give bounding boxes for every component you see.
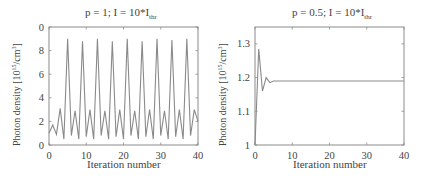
x-tick-label: 0 <box>46 150 51 161</box>
x-tick-label: 0 <box>252 150 257 161</box>
y-tick-label: 0 <box>39 140 44 151</box>
x-tick-label: 40 <box>399 150 410 161</box>
y-tick-label: 4 <box>39 92 45 103</box>
y-tick-label: 2 <box>39 116 44 127</box>
x-axis-label-right: Iteration number <box>293 158 367 170</box>
y-tick-label: 8 <box>39 45 44 56</box>
y-axis-label-left: Photon density [1015/cm3] <box>11 43 22 146</box>
chart-panel-right: p = 0.5; I = 10*Ithr 01020304011.11.21.3… <box>206 0 419 183</box>
x-axis-label-left: Iteration number <box>87 158 161 170</box>
axes-frame <box>255 27 404 145</box>
y-tick-label: 1.1 <box>237 106 250 117</box>
chart-panel-left: p = 1; I = 10*Ithr 010203040024680 Itera… <box>0 0 213 183</box>
y-axis-label-right: Photon density [1015/cm3] <box>217 43 228 146</box>
y-tick-label: 0 <box>39 22 44 33</box>
data-series-line <box>49 39 198 139</box>
y-tick-label: 6 <box>39 69 44 80</box>
y-tick-label: 1 <box>245 140 250 151</box>
plot-area-left: 010203040024680 <box>0 0 213 183</box>
x-tick-label: 40 <box>193 150 204 161</box>
y-tick-label: 1.3 <box>237 38 250 49</box>
data-series-line <box>255 49 404 145</box>
plot-area-right: 01020304011.11.21.3 <box>206 0 419 183</box>
y-tick-label: 1.2 <box>237 72 250 83</box>
